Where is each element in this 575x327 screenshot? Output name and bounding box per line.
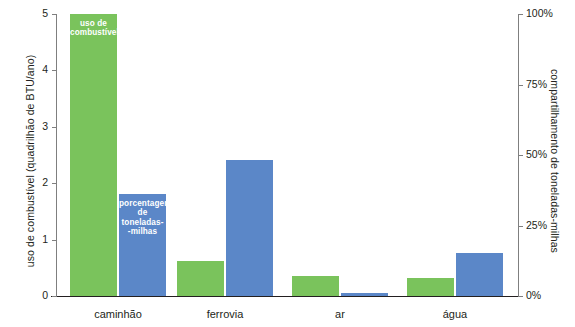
bar-share-caminhao[interactable]: porcentagem de toneladas- -milhas: [119, 194, 166, 296]
y-tick-right-label-50: 50%: [526, 149, 547, 160]
bar-label-fuel: uso de combustível: [70, 19, 117, 38]
x-tick-label-ferrovia: ferrovia: [177, 308, 273, 320]
y-tick-left-label-0: 0: [42, 290, 48, 301]
y-tick-right-label-25: 25%: [526, 220, 547, 231]
bar-label-share-line3: toneladas-: [122, 218, 164, 227]
plot-area: 5 4 3 2 1 0 100% 75%: [56, 14, 519, 296]
bar-fuel-ar[interactable]: [292, 276, 339, 296]
y-tick-right-label-100: 100%: [526, 8, 553, 19]
x-axis-line: [51, 296, 523, 297]
chart-container: uso de combustível (quadrilhão de BTU/an…: [0, 0, 575, 327]
bar-share-agua[interactable]: [456, 253, 503, 296]
bar-share-ar[interactable]: [341, 293, 388, 296]
x-tick-label-agua: água: [407, 308, 503, 320]
bar-label-share-line4: -milhas: [128, 227, 157, 236]
bar-fuel-caminhao[interactable]: uso de combustível: [70, 14, 117, 296]
bar-fuel-ferrovia[interactable]: [177, 261, 224, 296]
bar-fuel-agua[interactable]: [407, 278, 454, 296]
x-tick-label-ar: ar: [292, 308, 388, 320]
y-axis-left-line: [56, 14, 57, 297]
y-tick-left-label-2: 2: [42, 177, 48, 188]
bar-label-share-line2: de: [138, 208, 148, 217]
y-tick-right-label-0: 0%: [526, 290, 541, 301]
y-tick-right-label-75: 75%: [526, 79, 547, 90]
y-tick-left-label-5: 5: [42, 8, 48, 19]
y-tick-left-label-4: 4: [42, 64, 48, 75]
y-axis-left-title: uso de combustível (quadrilhão de BTU/an…: [24, 31, 36, 291]
bar-label-fuel-line1: uso de: [80, 19, 107, 28]
bar-label-share-line1: porcentagem: [119, 199, 172, 208]
bar-share-ferrovia[interactable]: [226, 160, 273, 296]
y-tick-left-label-3: 3: [42, 121, 48, 132]
bar-label-share: porcentagem de toneladas- -milhas: [119, 199, 166, 237]
y-axis-right-title: compartilhamento de toneladas-milhas: [549, 31, 561, 291]
bar-label-fuel-line2: combustível: [70, 28, 119, 37]
x-tick-label-caminhao: caminhão: [70, 308, 166, 320]
y-tick-left-label-1: 1: [42, 234, 48, 245]
